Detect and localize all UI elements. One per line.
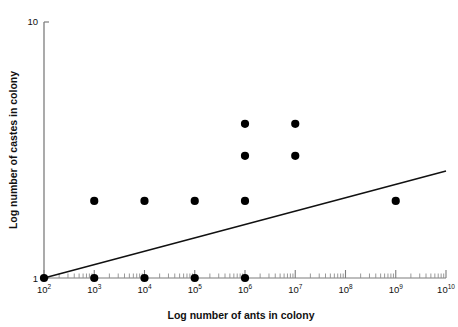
data-point [90,274,98,282]
y-tick-label-1: 1 [33,273,38,284]
data-point [40,274,48,282]
data-point [140,274,148,282]
data-point [392,197,400,205]
scatter-plot-figure: 1021031041051061071081091010 10 1 Log nu… [0,0,458,327]
data-point [241,274,249,282]
x-axis-title: Log number of ants in colony [168,309,315,321]
y-tick-label-10: 10 [27,16,38,27]
data-point [291,152,299,160]
data-point [291,120,299,128]
data-point [140,197,148,205]
cropped-header-text [248,0,458,5]
data-point [191,274,199,282]
data-point [241,120,249,128]
data-point [241,197,249,205]
data-point [191,197,199,205]
data-point [90,197,98,205]
data-point [241,152,249,160]
y-axis-title: Log number of castes in colony [7,71,19,229]
plot-canvas: 1021031041051061071081091010 10 1 Log nu… [0,0,458,327]
